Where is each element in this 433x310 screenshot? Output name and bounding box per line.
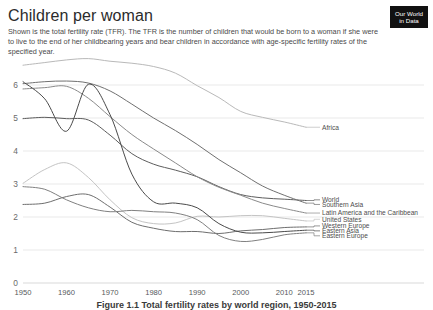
- x-axis-tick-label: 1990: [189, 288, 206, 297]
- y-axis-tick-label: 5: [13, 113, 18, 123]
- y-axis-tick-label: 3: [13, 179, 18, 189]
- chart-plot-area: 012345619501960197019801990200020102015A…: [0, 0, 433, 310]
- x-axis-tick-label: 1980: [145, 288, 162, 297]
- series-label-africa[interactable]: Africa: [322, 124, 339, 131]
- x-axis-tick-label: 1970: [102, 288, 119, 297]
- x-axis-tick-label: 2000: [232, 288, 249, 297]
- x-axis-tick-label: 2015: [298, 288, 315, 297]
- series-leader-line: [306, 230, 320, 231]
- y-axis-tick-label: 6: [13, 80, 18, 90]
- figure-caption: Figure 1.1 Total fertility rates by worl…: [0, 300, 433, 310]
- line-chart-svg: 012345619501960197019801990200020102015A…: [0, 0, 433, 310]
- y-axis-tick-label: 2: [13, 212, 18, 222]
- x-axis-tick-label: 1960: [58, 288, 75, 297]
- series-line[interactable]: [23, 187, 306, 242]
- y-axis-tick-label: 0: [13, 278, 18, 288]
- series-line[interactable]: [23, 86, 306, 213]
- series-line[interactable]: [23, 82, 306, 233]
- series-leader-line: [306, 226, 320, 227]
- series-line[interactable]: [23, 163, 306, 224]
- series-label-eastern-europe[interactable]: Eastern Europe: [322, 232, 368, 240]
- series-leader-line: [306, 233, 320, 236]
- x-axis-tick-label: 1950: [15, 288, 32, 297]
- series-line[interactable]: [23, 81, 306, 203]
- x-axis-tick-label: 2010: [276, 288, 293, 297]
- series-label-southern-asia[interactable]: Southern Asia: [322, 201, 363, 208]
- y-axis-tick-label: 4: [13, 146, 18, 156]
- series-leader-line: [306, 203, 320, 204]
- series-line[interactable]: [23, 117, 306, 200]
- series-line[interactable]: [23, 59, 306, 128]
- series-leader-line: [306, 219, 320, 221]
- y-axis-tick-label: 1: [13, 245, 18, 255]
- chart-page: Children per woman Shown is the total fe…: [0, 0, 433, 310]
- series-leader-line: [306, 200, 320, 201]
